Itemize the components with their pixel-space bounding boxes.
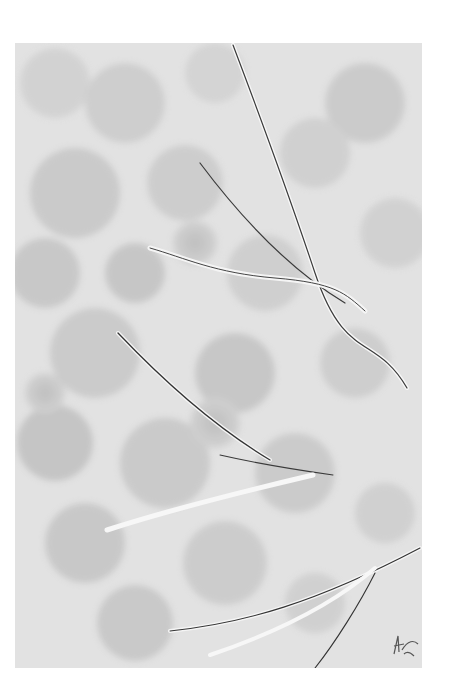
painting-svg xyxy=(15,43,422,668)
painting xyxy=(15,43,422,668)
artist-signature xyxy=(390,632,422,662)
